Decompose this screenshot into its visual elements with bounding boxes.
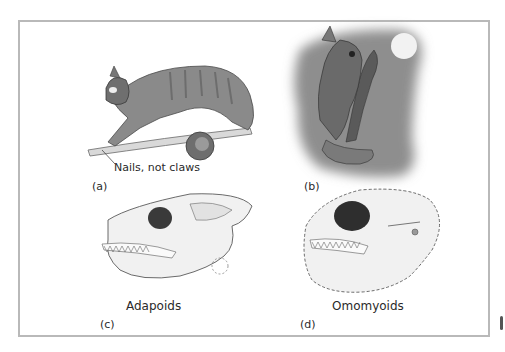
panel-label-d: (d) <box>300 318 316 331</box>
caption-omomyoids: Omomyoids <box>332 299 404 313</box>
page-edge-mark <box>500 316 503 330</box>
panel-d: Omomyoids (d) <box>0 0 505 352</box>
omomyoid-skull-illustration <box>0 0 505 352</box>
